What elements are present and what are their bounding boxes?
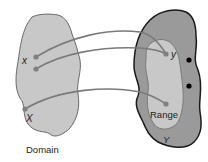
range-caption: Range — [150, 109, 178, 120]
set-label-y: Y — [163, 134, 170, 145]
domain-point-lower — [22, 106, 27, 111]
set-label-x: X — [25, 113, 33, 124]
range-point-y — [163, 51, 168, 56]
domain-caption: Domain — [26, 144, 59, 155]
domain-point-upper — [33, 54, 38, 59]
codomain-unmapped-point-2 — [186, 83, 191, 88]
function-mapping-diagram: x X y Range Y Domain — [0, 0, 208, 162]
codomain-unmapped-point-1 — [186, 57, 191, 62]
range-point-lower — [163, 101, 168, 106]
element-label-y: y — [170, 49, 177, 60]
domain-point-middle — [33, 66, 38, 71]
element-label-x: x — [21, 55, 28, 66]
